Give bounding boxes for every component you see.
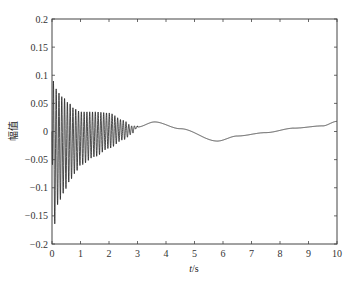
y-tick-label: −0.1 xyxy=(30,182,48,193)
x-tick-label: 8 xyxy=(278,248,283,259)
x-tick-label: 3 xyxy=(135,248,140,259)
x-axis-label: t/s xyxy=(189,263,199,274)
x-tick-label: 2 xyxy=(107,248,112,259)
y-tick-label: 0.05 xyxy=(31,98,49,109)
y-tick-label: −0.2 xyxy=(30,239,48,250)
x-tick-label: 5 xyxy=(192,248,197,259)
line-chart: 012345678910 0.20.150.10.050−0.05−0.1−0.… xyxy=(0,0,353,286)
x-tick-label: 9 xyxy=(306,248,311,259)
x-tick-label: 10 xyxy=(332,248,342,259)
x-tick-label: 6 xyxy=(221,248,226,259)
x-axis-label-unit: /s xyxy=(192,263,199,274)
x-tick-label: 1 xyxy=(78,248,83,259)
y-axis-ticks: 0.20.150.10.050−0.05−0.1−0.15−0.2 xyxy=(25,14,337,250)
x-tick-label: 0 xyxy=(50,248,55,259)
y-tick-label: 0.15 xyxy=(31,42,49,53)
amplitude-series-line xyxy=(52,81,337,224)
x-tick-label: 4 xyxy=(164,248,169,259)
y-tick-label: 0 xyxy=(43,126,48,137)
y-axis-label: 幅值 xyxy=(7,121,19,141)
x-tick-label: 7 xyxy=(249,248,254,259)
y-tick-label: 0.1 xyxy=(36,70,49,81)
y-tick-label: 0.2 xyxy=(36,14,49,25)
y-tick-label: −0.15 xyxy=(25,210,48,221)
y-tick-label: −0.05 xyxy=(25,154,48,165)
